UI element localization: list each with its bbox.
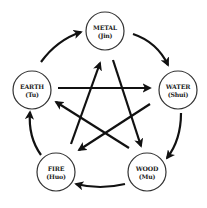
node-metal: METAL (Jin): [86, 12, 124, 50]
node-wood: WOOD (Mu): [128, 153, 166, 191]
arrow-wood-to-fire: [76, 184, 125, 187]
node-pinyin: (Mu): [139, 173, 156, 180]
arrow-fire-to-metal: [71, 63, 100, 144]
node-circle: [128, 153, 166, 191]
arrow-water-to-wood: [167, 113, 181, 158]
node-circle: [159, 71, 197, 109]
controlling-cycle: [56, 60, 150, 150]
node-pinyin: (Tu): [25, 91, 39, 98]
node-name: WOOD: [135, 165, 159, 172]
node-pinyin: (Jin): [98, 32, 113, 40]
arrow-fire-to-earth: [30, 112, 41, 155]
node-circle: [86, 12, 124, 50]
node-name: METAL: [93, 24, 118, 31]
arrow-metal-to-water: [133, 34, 168, 65]
node-name: WATER: [165, 83, 192, 90]
node-earth: EARTH (Tu): [13, 71, 51, 109]
node-name: FIRE: [48, 165, 65, 172]
node-pinyin: (Huo): [46, 173, 66, 180]
node-circle: [13, 71, 51, 109]
node-fire: FIRE (Huo): [37, 153, 75, 191]
node-circle: [37, 153, 75, 191]
node-water: WATER (Shui): [159, 71, 197, 109]
node-name: EARTH: [20, 83, 44, 90]
arrow-metal-to-wood: [113, 60, 141, 146]
node-pinyin: (Shui): [168, 91, 189, 98]
arrow-earth-to-metal: [41, 32, 81, 62]
five-elements-diagram: METAL (Jin) WATER (Shui) WOOD (Mu) FIRE …: [0, 0, 207, 208]
